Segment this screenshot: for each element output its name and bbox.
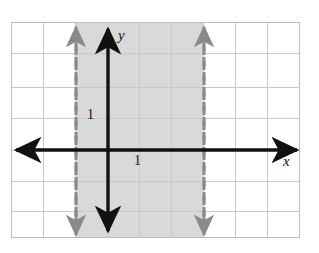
y-unit-tick-label: 1	[87, 108, 94, 122]
coordinate-plane-svg	[0, 0, 319, 253]
x-axis-label: x	[283, 154, 290, 169]
graph-figure: y x 1 1	[0, 0, 319, 253]
y-axis-label: y	[118, 28, 125, 43]
x-unit-tick-label: 1	[134, 154, 141, 168]
